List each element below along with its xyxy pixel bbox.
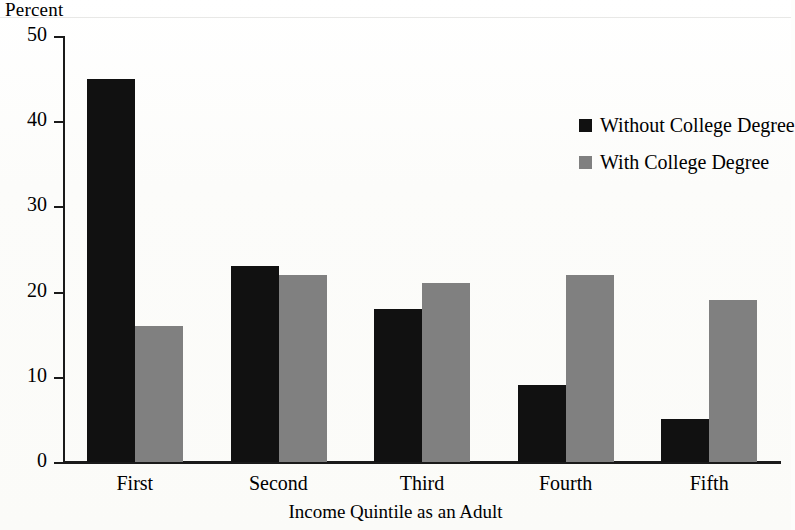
bar-group [494,36,638,462]
x-axis-title: Income Quintile as an Adult [0,501,791,522]
legend-item-without-college-degree: Without College Degree [579,113,795,137]
y-axis-tick: 50 [54,36,63,38]
bar [661,419,709,462]
x-axis-tick-label: First [60,472,210,494]
legend-label: Without College Degree [600,114,795,136]
bar-group [637,36,781,462]
x-axis-tick-label: Second [203,472,353,494]
y-axis-tick: 30 [54,206,63,208]
y-axis-tick-label: 10 [27,365,47,385]
x-axis-tick-labels: FirstSecondThirdFourthFifth [63,472,781,498]
y-axis-tick: 20 [54,292,63,294]
y-axis-tick-label: 50 [27,24,47,44]
x-axis-tick-label: Fifth [634,472,784,494]
x-axis-tick-label: Fourth [491,472,641,494]
bar-group [207,36,351,462]
chart-legend: Without College Degree With College Degr… [579,113,795,187]
bar [135,326,183,462]
bar [374,309,422,462]
bar-series-container [63,36,781,462]
x-axis-tick-label: Third [347,472,497,494]
y-axis-tick-label: 30 [27,194,47,214]
legend-swatch-icon [579,156,592,169]
y-axis-tick: 0 [54,462,63,464]
bar [422,283,470,462]
y-axis-tick-label: 20 [27,280,47,300]
bar [566,275,614,462]
bar-group [350,36,494,462]
legend-swatch-icon [579,119,592,132]
bar [279,275,327,462]
bar [87,79,135,462]
bar [709,300,757,462]
legend-label: With College Degree [600,151,769,173]
y-axis-tick: 40 [54,121,63,123]
bar [518,385,566,462]
plot-area: 50403020100 Without College Degree With … [63,36,781,463]
y-axis-tick-label: 40 [27,109,47,129]
bar-group [63,36,207,462]
bar [231,266,279,462]
legend-item-with-college-degree: With College Degree [579,150,795,174]
y-axis-title: Percent [5,0,63,19]
y-axis-tick-label: 0 [37,450,47,470]
y-axis-tick: 10 [54,377,63,379]
